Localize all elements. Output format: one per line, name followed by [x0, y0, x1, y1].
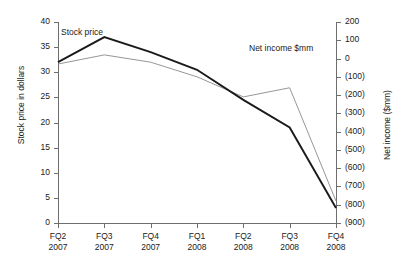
chart-container: 0510152025303540 2001000(100)(200)(300)(…: [0, 0, 398, 275]
net-income-line: [58, 55, 336, 201]
stock-price-line: [58, 37, 336, 208]
plot-area: [0, 0, 398, 275]
